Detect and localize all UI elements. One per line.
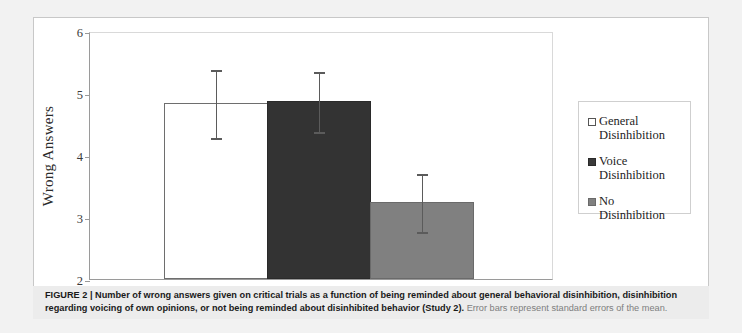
legend-item-label: Voice Disinhibition [599,154,682,182]
legend-item-label: General Disinhibition [599,114,682,142]
error-bar-cap [417,174,428,176]
y-axis-tick-label: 5 [77,88,90,103]
list-item: Voice Disinhibition [588,154,682,182]
figure-caption: FIGURE 2 | Number of wrong answers given… [33,286,709,319]
error-bar-cap [211,138,222,140]
error-bar-cap [314,132,325,134]
legend-item-label: No Disinhibition [599,194,682,222]
error-bar [216,70,217,139]
error-bar [422,174,423,234]
caption-figure-label: FIGURE 2 | [45,290,93,300]
error-bar-cap [211,70,222,72]
error-bar-cap [314,72,325,74]
list-item: General Disinhibition [588,114,682,142]
figure-card: Wrong Answers 23456 General Disinhibitio… [33,17,709,319]
gray-square-icon [588,198,596,206]
y-axis-tick-label: 4 [77,150,90,165]
white-square-icon [588,118,596,126]
caption-text: FIGURE 2 | Number of wrong answers given… [45,289,697,315]
error-bar [319,72,320,134]
caption-note: Error bars represent standard errors of … [467,303,668,313]
figure-background: Wrong Answers 23456 General Disinhibitio… [0,0,742,333]
dark-gray-square-icon [588,158,596,166]
list-item: No Disinhibition [588,194,682,222]
y-axis-tick-label: 6 [77,26,90,41]
error-bar-cap [417,232,428,234]
plot-area: 23456 [89,32,553,280]
y-axis-tick-label: 3 [77,212,90,227]
chart-legend: General Disinhibition Voice Disinhibitio… [578,101,691,214]
y-axis-title: Wrong Answers [40,106,57,206]
